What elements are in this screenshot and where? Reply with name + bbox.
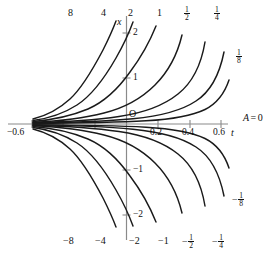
tick-label-x-neg2: −2 bbox=[133, 210, 143, 220]
minus-sign: − bbox=[232, 195, 238, 205]
curve-A-8 bbox=[33, 21, 116, 119]
curve-A-neg8 bbox=[33, 129, 116, 227]
fraction-denominator: 4 bbox=[214, 14, 220, 22]
minus-sign: − bbox=[182, 237, 188, 247]
fraction-one-eighth: 1 8 bbox=[238, 192, 244, 208]
tick-label-x-pos2: 2 bbox=[133, 28, 138, 38]
tick-label-t-pos06: 0.6 bbox=[213, 128, 225, 138]
fraction-denominator: 2 bbox=[188, 242, 194, 250]
fraction-denominator: 8 bbox=[238, 200, 244, 208]
fraction-one-eighth: 1 8 bbox=[236, 49, 242, 65]
lower-curves-group bbox=[33, 125, 229, 227]
signed-fraction-neg-one-quarter: − 1 4 bbox=[212, 234, 224, 250]
curve-label-4: 4 bbox=[101, 8, 106, 18]
y-axis-name: x bbox=[117, 17, 121, 27]
curve-label-neg8: −8 bbox=[63, 236, 74, 246]
curve-label-1-8: 1 8 bbox=[236, 49, 242, 65]
origin-label: O bbox=[129, 109, 136, 119]
fraction-one-half: 1 2 bbox=[184, 6, 190, 22]
fraction-denominator: 8 bbox=[236, 57, 242, 65]
parameter-symbol-A: A bbox=[243, 112, 249, 123]
tick-label-x-pos1: 1 bbox=[133, 73, 138, 83]
curve-label-neg2: −2 bbox=[129, 236, 140, 246]
equals-sign: = bbox=[251, 112, 257, 123]
tick-label-x-neg1: −1 bbox=[133, 165, 143, 175]
curve-label-neg1-4: − 1 4 bbox=[212, 234, 224, 250]
signed-fraction-neg-one-eighth: − 1 8 bbox=[232, 192, 244, 208]
signed-fraction-neg-one-half: − 1 2 bbox=[182, 234, 194, 250]
fraction-denominator: 2 bbox=[184, 14, 190, 22]
tick-label-t-pos04: 0.4 bbox=[182, 128, 194, 138]
curve-A-neg4 bbox=[33, 128, 133, 227]
curve-A-4 bbox=[33, 22, 133, 121]
tick-label-t-pos02: 0.2 bbox=[150, 128, 162, 138]
fraction-one-quarter: 1 4 bbox=[218, 234, 224, 250]
curve-label-1: 1 bbox=[157, 8, 162, 18]
minus-sign: − bbox=[212, 237, 218, 247]
solution-curve-figure: x t O −0.6 0.2 0.4 0.6 2 1 −1 −2 8 4 2 1… bbox=[0, 0, 279, 257]
separatrix-label-A-equals-0: A=0 bbox=[243, 113, 263, 123]
curve-label-2: 2 bbox=[128, 8, 133, 18]
parameter-value-0: 0 bbox=[258, 112, 263, 123]
curve-label-neg1-2: − 1 2 bbox=[182, 234, 194, 250]
curve-label-8: 8 bbox=[68, 8, 73, 18]
curve-label-1-4: 1 4 bbox=[214, 6, 220, 22]
fraction-one-half: 1 2 bbox=[188, 234, 194, 250]
curve-label-neg1-8: − 1 8 bbox=[232, 192, 244, 208]
curve-label-neg1: −1 bbox=[158, 236, 169, 246]
fraction-one-quarter: 1 4 bbox=[214, 6, 220, 22]
x-axis-name: t bbox=[231, 128, 234, 138]
curve-label-neg4: −4 bbox=[95, 236, 106, 246]
curve-label-1-2: 1 2 bbox=[184, 6, 190, 22]
tick-label-t-neg06: −0.6 bbox=[7, 128, 24, 138]
fraction-denominator: 4 bbox=[218, 242, 224, 250]
